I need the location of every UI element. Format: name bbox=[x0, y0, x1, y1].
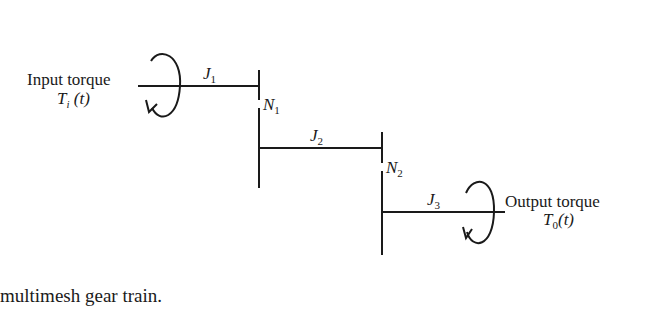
input-torque-symbol: Ti (t) bbox=[57, 90, 90, 110]
input-torque-label: Input torque bbox=[27, 71, 111, 88]
inertia-j3-label: J3 bbox=[427, 191, 440, 211]
gear-n1-label: N1 bbox=[263, 96, 280, 116]
input-arrowhead-icon bbox=[146, 100, 157, 112]
output-torque-symbol: T0(t) bbox=[543, 211, 574, 231]
figure-caption: multimesh gear train. bbox=[0, 286, 162, 305]
output-torque-label: Output torque bbox=[505, 193, 600, 210]
inertia-j1-label: J1 bbox=[203, 65, 216, 85]
gear-n2-label: N2 bbox=[386, 159, 403, 179]
gear-train-diagram bbox=[0, 0, 647, 312]
inertia-j2-label: J2 bbox=[310, 127, 323, 147]
